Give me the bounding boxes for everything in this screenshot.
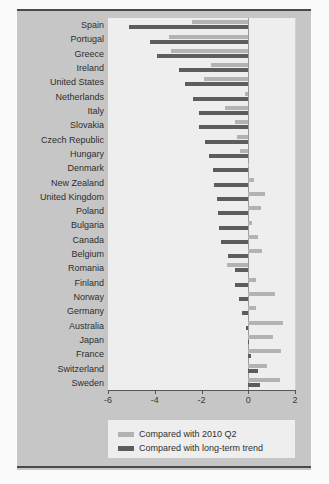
category-label: United States [18, 77, 104, 87]
bar-trend [246, 326, 248, 330]
bottom-rule [17, 466, 311, 468]
bar-trend [218, 211, 248, 215]
bar-q2 [248, 306, 256, 310]
x-tick [108, 390, 109, 394]
bar-trend [248, 369, 257, 373]
category-label: Australia [18, 321, 104, 331]
legend-swatch-icon [118, 446, 134, 451]
bar-trend [129, 25, 248, 29]
x-tick-label: 2 [292, 395, 297, 405]
category-label: Spain [18, 20, 104, 30]
bar-trend [199, 125, 248, 129]
category-label: Denmark [18, 163, 104, 173]
bar-trend [199, 111, 248, 115]
category-axis-labels: SpainPortugalGreeceIrelandUnited StatesN… [16, 18, 104, 390]
bar-trend [235, 268, 248, 272]
bar-trend [213, 168, 248, 172]
bar-trend [209, 154, 249, 158]
category-label: Romania [18, 263, 104, 273]
category-label: Greece [18, 49, 104, 59]
bar-q2 [237, 135, 249, 139]
bar-q2 [248, 335, 273, 339]
bar-trend [214, 183, 248, 187]
bar-q2 [248, 178, 254, 182]
category-label: Portugal [18, 34, 104, 44]
bar-q2 [248, 163, 249, 167]
category-label: Germany [18, 306, 104, 316]
bar-q2 [225, 106, 248, 110]
category-label: Japan [18, 335, 104, 345]
x-tick-label: -4 [151, 395, 159, 405]
bar-q2 [248, 206, 261, 210]
category-label: Italy [18, 106, 104, 116]
x-tick [202, 390, 203, 394]
bar-q2 [248, 292, 275, 296]
bar-trend [150, 40, 248, 44]
category-label: Sweden [18, 378, 104, 388]
top-rule [17, 9, 311, 11]
category-label: Czech Republic [18, 135, 104, 145]
bar-q2 [227, 263, 248, 267]
x-tick-label: -6 [104, 395, 112, 405]
bar-q2 [211, 63, 248, 67]
bar-trend [217, 197, 249, 201]
chart-legend: Compared with 2010 Q2Compared with long-… [108, 420, 295, 458]
bar-q2 [169, 35, 248, 39]
bar-trend [228, 254, 248, 258]
bar-q2 [248, 349, 281, 353]
bar-q2 [248, 192, 264, 196]
bar-q2 [248, 321, 283, 325]
bar-trend [239, 297, 248, 301]
bar-trend [179, 68, 248, 72]
chart-page: SpainPortugalGreeceIrelandUnited StatesN… [0, 0, 329, 484]
bar-trend [248, 340, 249, 344]
bar-q2 [248, 249, 262, 253]
category-label: Finland [18, 278, 104, 288]
bar-trend [205, 140, 248, 144]
category-label: Slovakia [18, 120, 104, 130]
x-tick-label: -2 [197, 395, 205, 405]
bar-q2 [248, 221, 252, 225]
category-label: Switzerland [18, 364, 104, 374]
bar-q2 [171, 49, 248, 53]
bar-q2 [204, 77, 248, 81]
legend-label: Compared with 2010 Q2 [139, 428, 237, 440]
bar-q2 [235, 120, 248, 124]
bar-trend [242, 311, 248, 315]
bar-q2 [192, 20, 248, 24]
category-label: Bulgaria [18, 220, 104, 230]
legend-swatch-icon [118, 432, 134, 437]
bar-trend [193, 97, 248, 101]
bar-q2 [248, 278, 256, 282]
bar-trend [221, 240, 248, 244]
bar-q2 [240, 149, 248, 153]
bar-q2 [248, 364, 267, 368]
category-label: Canada [18, 235, 104, 245]
legend-label: Compared with long-term trend [139, 442, 263, 454]
bar-q2 [245, 92, 249, 96]
bar-trend [157, 54, 248, 58]
bar-trend [248, 354, 250, 358]
bar-trend [219, 226, 248, 230]
x-tick-label: 0 [246, 395, 251, 405]
bar-q2 [248, 378, 280, 382]
bar-trend [185, 82, 248, 86]
x-tick [155, 390, 156, 394]
x-tick [248, 390, 249, 394]
bar-trend [248, 383, 260, 387]
bar-trend [235, 283, 248, 287]
category-label: Norway [18, 292, 104, 302]
category-label: Netherlands [18, 92, 104, 102]
category-label: Belgium [18, 249, 104, 259]
category-label: Hungary [18, 149, 104, 159]
category-label: Ireland [18, 63, 104, 73]
category-label: New Zealand [18, 178, 104, 188]
x-tick [295, 390, 296, 394]
category-label: France [18, 349, 104, 359]
bar-q2 [248, 235, 257, 239]
category-label: United Kingdom [18, 192, 104, 202]
category-label: Poland [18, 206, 104, 216]
